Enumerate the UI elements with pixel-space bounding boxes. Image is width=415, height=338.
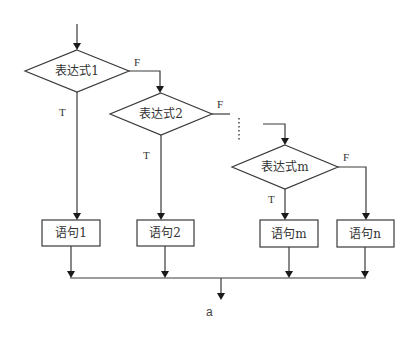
decision-expression-m: 表达式m: [232, 145, 338, 189]
merge-arrows: [67, 246, 369, 278]
statement-1-box: 语句1: [42, 220, 100, 246]
exit-label: a: [206, 305, 213, 319]
statement-2-box: 语句2: [137, 220, 194, 246]
decision-m-label: 表达式m: [261, 160, 309, 174]
statement-1-label: 语句1: [55, 226, 87, 240]
statement-m-box: 语句m: [260, 220, 318, 247]
decision-2-false-label: F: [217, 98, 223, 110]
entry-arrow: [73, 24, 81, 50]
decision-2-true-branch: T: [143, 135, 165, 220]
flowchart-diagram: 表达式1 F T 表达式2 F T 表达式m T: [0, 0, 415, 338]
statement-m-label: 语句m: [271, 227, 307, 241]
decision-m-true-branch: T: [268, 189, 289, 220]
decision-2-label: 表达式2: [139, 107, 183, 121]
decision-2-false-branch: F: [212, 98, 239, 142]
statement-n-box: 语句n: [337, 220, 394, 247]
decision-1-label: 表达式1: [55, 64, 99, 78]
decision-m-false-label: F: [343, 151, 349, 163]
statement-n-label: 语句n: [349, 227, 381, 241]
decision-1-true-label: T: [59, 106, 66, 118]
decision-m-false-branch: F: [338, 151, 370, 220]
decision-expression-2: 表达式2: [110, 93, 212, 135]
decision-1-false-label: F: [134, 56, 140, 68]
decision-m-true-label: T: [268, 193, 275, 205]
statement-2-label: 语句2: [149, 226, 181, 240]
exit-arrow: [217, 278, 225, 300]
decision-2-true-label: T: [143, 149, 150, 161]
decision-1-true-branch: T: [59, 92, 81, 220]
decision-m-entry-arrow: [263, 124, 289, 145]
decision-1-false-branch: F: [129, 56, 164, 93]
decision-expression-1: 表达式1: [25, 50, 129, 92]
